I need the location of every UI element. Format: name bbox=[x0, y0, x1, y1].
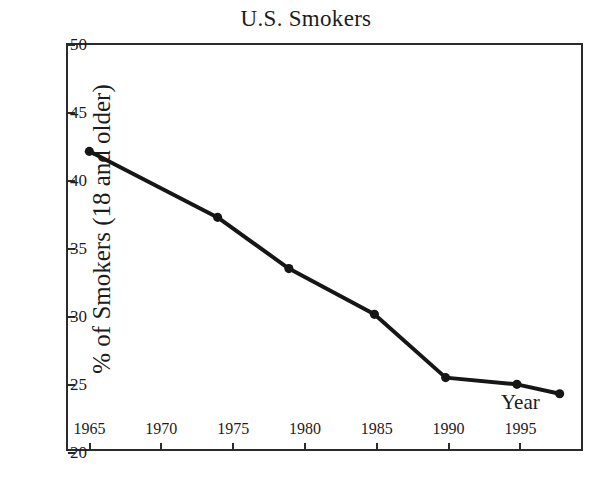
data-point bbox=[441, 373, 450, 382]
data-point bbox=[85, 147, 94, 156]
series-line bbox=[89, 151, 559, 393]
data-point bbox=[213, 213, 222, 222]
data-point bbox=[284, 264, 293, 273]
chart-page: U.S. Smokers % of Smokers (18 and older)… bbox=[0, 0, 612, 477]
data-point bbox=[370, 310, 379, 319]
plot-area: % of Smokers (18 and older) 202530354045… bbox=[66, 43, 583, 451]
series-line-layer bbox=[68, 45, 581, 449]
data-point bbox=[555, 389, 564, 398]
data-point bbox=[512, 380, 521, 389]
